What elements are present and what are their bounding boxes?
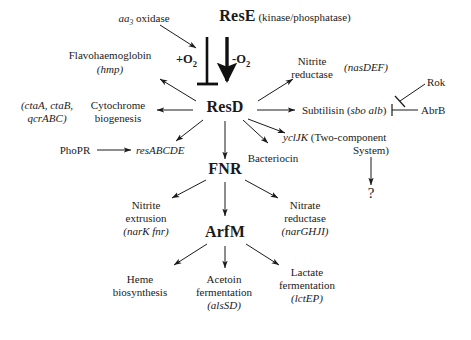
pathway-diagram: aa3 oxidase ResE (kinase/phosphatase) +O… xyxy=(0,0,471,340)
node-phopr: PhoPR xyxy=(60,144,91,157)
node-ycljk-line2: System) xyxy=(353,144,389,157)
node-lactate-line1: Lactate xyxy=(291,266,323,279)
node-fnr: FNR xyxy=(208,163,241,176)
node-cytochrome-line2: biogenesis xyxy=(95,112,141,125)
node-nitrite-reductase-gene: (nasDEF) xyxy=(344,61,388,74)
edge-resd-to-bacteriocin xyxy=(243,120,268,143)
edge-plus-o2-inhibition xyxy=(197,37,218,84)
node-flavohaemoglobin-gene: (hmp) xyxy=(97,63,123,76)
edge-fnr-to-nitrite-extrusion xyxy=(172,180,206,198)
edge-arfm-to-heme xyxy=(174,244,207,265)
node-cytochrome-genes-line1: (ctaA, ctaB, xyxy=(21,99,73,112)
node-nitrite-reductase-line1: Nitrite xyxy=(298,55,327,68)
edge-resd-to-ycljk xyxy=(248,119,285,133)
node-nitrite-extrusion-gene: (narK fnr) xyxy=(123,225,169,238)
edge-resd-to-nitrite-reductase xyxy=(258,79,293,101)
edge-resd-to-flavohaemoglobin xyxy=(160,79,196,101)
node-nitrite-extrusion-line1: Nitrite xyxy=(132,199,161,212)
label-plus-o2: +O2 xyxy=(176,53,197,70)
edge-abrb-inhibits-subtilisin xyxy=(392,104,418,116)
node-rok: Rok xyxy=(427,76,445,89)
node-rese: ResE (kinase/phosphatase) xyxy=(219,10,350,24)
edge-arfm-to-lactate xyxy=(246,244,279,265)
node-acetoin-line2: fermentation xyxy=(196,286,252,299)
node-acetoin-gene: (alsSD) xyxy=(207,299,241,312)
edge-fnr-to-nitrate-reductase xyxy=(245,180,278,198)
node-lactate-line2: fermentation xyxy=(279,279,335,292)
label-aa3-oxidase: aa3 oxidase xyxy=(118,12,169,30)
node-cytochrome-genes-line2: qcrABC) xyxy=(27,112,66,125)
node-heme-line1: Heme xyxy=(127,273,153,286)
node-nitrite-reductase-line2: reductase xyxy=(291,68,333,81)
node-acetoin-line1: Acetoin xyxy=(207,273,242,286)
node-resabcde: resABCDE xyxy=(136,144,184,157)
node-lactate-gene: (lctEP) xyxy=(291,292,323,305)
node-resd: ResD xyxy=(206,101,243,114)
node-abrb: AbrB xyxy=(421,104,445,117)
node-nitrate-reductase-line2: reductase xyxy=(284,212,326,225)
node-flavohaemoglobin: Flavohaemoglobin xyxy=(69,49,152,62)
node-subtilisin: Subtilisin (sbo alb) xyxy=(302,104,386,117)
node-bacteriocin: Bacteriocin xyxy=(248,152,299,165)
label-minus-o2: -O2 xyxy=(232,53,250,70)
node-heme-line2: biosynthesis xyxy=(113,286,167,299)
node-cytochrome-line1: Cytochrome xyxy=(91,99,145,112)
node-ycljk: yclJK (Two-component xyxy=(283,131,386,144)
node-nitrite-extrusion-line2: extrusion xyxy=(126,212,167,225)
node-nitrate-reductase-line1: Nitrate xyxy=(290,199,321,212)
node-question-mark: ? xyxy=(368,187,375,200)
node-arfm: ArfM xyxy=(205,226,245,239)
edge-resd-to-resabcde xyxy=(176,120,203,141)
node-nitrate-reductase-gene: (narGHJI) xyxy=(281,225,328,238)
